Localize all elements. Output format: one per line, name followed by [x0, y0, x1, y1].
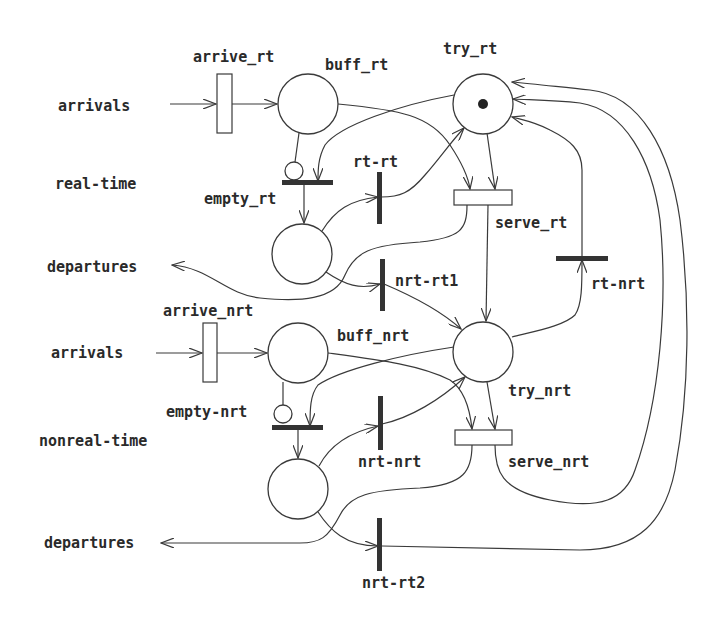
- label-nrt-departures: departures: [44, 534, 134, 552]
- transition-serve-rt: [454, 190, 512, 205]
- arc-nrt-nrt-to-try-nrt: [382, 377, 465, 424]
- place-inhibitor-nrt: [274, 405, 292, 423]
- arc-try-nrt-to-serve-nrt: [487, 382, 495, 429]
- transition-arrive-rt: [217, 74, 232, 133]
- transition-rt-rt: [377, 172, 382, 224]
- arc-serve-nrt-to-try-rt: [495, 99, 663, 504]
- place-try-nrt: [453, 322, 513, 382]
- token-dot: [478, 99, 488, 109]
- transition-rt-nrt: [556, 256, 608, 261]
- arc-serve-rt-to-try-nrt: [486, 205, 488, 321]
- label-rt-nrt: rt-nrt: [591, 275, 645, 293]
- arc-buff-rt-inhibitor: [295, 133, 299, 162]
- label-buff-rt: buff_rt: [325, 56, 388, 74]
- label-arrive-rt: arrive_rt: [193, 48, 274, 66]
- arc-place-to-rt-rt: [322, 197, 378, 231]
- label-arrive-nrt: arrive_nrt: [163, 302, 253, 320]
- label-rt-departures: departures: [47, 258, 137, 276]
- label-try-nrt: try_nrt: [508, 382, 571, 400]
- label-serve-nrt: serve_nrt: [508, 453, 589, 471]
- label-nrt-nrt: nrt-nrt: [358, 453, 421, 471]
- label-empty-rt: empty_rt: [204, 190, 276, 208]
- label-nrt-arrivals: arrivals: [51, 344, 123, 362]
- label-rt-rt: rt-rt: [353, 153, 398, 171]
- arc-try-nrt-to-rt-nrt: [512, 260, 582, 337]
- label-rt-arrivals: arrivals: [58, 97, 130, 115]
- transition-arrive-nrt: [203, 323, 217, 382]
- label-empty-nrt: empty-nrt: [166, 403, 247, 421]
- petri-net-diagram: arrivals real-time departures arrivals n…: [0, 0, 720, 622]
- transition-empty-nrt-bar: [272, 425, 323, 430]
- arc-try-rt-to-serve-rt: [487, 133, 495, 189]
- arc-nrt-rt2-to-try-rt: [382, 82, 687, 550]
- place-empty-rt: [272, 224, 332, 284]
- transition-nrt-rt2: [377, 518, 382, 571]
- transition-empty-rt-bar: [282, 180, 333, 185]
- place-buff-rt: [278, 74, 338, 134]
- labels: arrivals real-time departures arrivals n…: [39, 40, 645, 592]
- arc-place-to-nrt-rt1: [326, 272, 380, 287]
- label-nonreal-time: nonreal-time: [39, 432, 147, 450]
- arc-nrt-rt1-to-try-nrt: [384, 284, 461, 329]
- label-buff-nrt: buff_nrt: [337, 327, 409, 345]
- label-nrt-rt1: nrt-rt1: [395, 272, 458, 290]
- label-nrt-rt2: nrt-rt2: [362, 574, 425, 592]
- arc-buff-rt-to-serve-rt: [338, 104, 470, 189]
- place-inhibitor-rt: [285, 162, 303, 180]
- arc-buff-nrt-to-serve-nrt: [328, 353, 472, 429]
- arc-rt-nrt-to-try-rt: [512, 117, 582, 258]
- label-try-rt: try_rt: [443, 40, 497, 58]
- transition-nrt-rt1: [380, 259, 385, 311]
- label-serve-rt: serve_rt: [495, 214, 567, 232]
- label-real-time: real-time: [55, 175, 136, 193]
- transition-nrt-nrt: [378, 396, 383, 450]
- place-buff-nrt: [268, 323, 328, 383]
- timed-transitions: [203, 74, 512, 445]
- place-empty-nrt: [268, 459, 328, 519]
- transition-serve-nrt: [455, 430, 512, 445]
- arc-place-to-nrt-rt2: [318, 512, 378, 546]
